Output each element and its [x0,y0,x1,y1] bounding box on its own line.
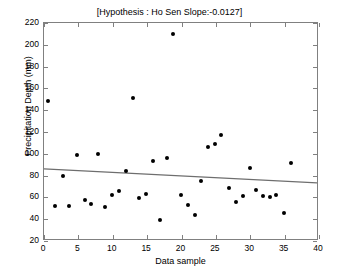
y-tick-label: 200 [6,39,39,49]
x-tick-label: 30 [237,243,261,253]
scatter-point [89,202,93,206]
scatter-point [158,218,162,222]
y-tick-label: 220 [6,17,39,27]
scatter-point [234,200,238,204]
scatter-point [213,142,217,146]
scatter-point [241,194,245,198]
scatter-point [268,195,272,199]
x-tick-label: 25 [203,243,227,253]
x-tick-label: 40 [306,243,330,253]
scatter-point [248,166,252,170]
plot-area [43,22,318,240]
scatter-point [53,204,57,208]
scatter-point [110,193,114,197]
scatter-point [261,194,265,198]
scatter-point [289,161,293,165]
x-tick-label: 10 [100,243,124,253]
y-tick-label: 40 [6,213,39,223]
scatter-point [206,145,210,149]
data-points [44,23,317,239]
scatter-point [199,179,203,183]
y-tick-label: 100 [6,148,39,158]
x-tick-label: 0 [31,243,55,253]
scatter-point [144,192,148,196]
scatter-point [131,96,135,100]
scatter-point [171,32,175,36]
x-axis-label: Data sample [43,256,318,266]
scatter-point [61,174,65,178]
x-tick-label: 15 [134,243,158,253]
scatter-point [186,203,190,207]
y-tick-label: 180 [6,61,39,71]
y-tick-label: 160 [6,82,39,92]
scatter-point [83,198,87,202]
scatter-point [179,193,183,197]
y-tick-label: 60 [6,191,39,201]
scatter-point [151,159,155,163]
x-tick-mark [319,235,320,239]
scatter-point [117,189,121,193]
scatter-point [46,99,50,103]
x-tick-mark-top [319,23,320,27]
figure-canvas: [Hypothesis : Ho Sen Slope:-0.0127] Prec… [0,0,339,275]
x-tick-label: 5 [65,243,89,253]
y-tick-label: 140 [6,104,39,114]
chart-title: [Hypothesis : Ho Sen Slope:-0.0127] [0,7,339,17]
scatter-point [193,213,197,217]
scatter-point [103,205,107,209]
y-tick-mark-right [313,241,317,242]
scatter-point [96,152,100,156]
x-tick-label: 20 [169,243,193,253]
scatter-point [137,196,141,200]
scatter-point [165,156,169,160]
scatter-point [219,133,223,137]
y-tick-mark [44,241,48,242]
scatter-point [254,188,258,192]
x-tick-label: 35 [272,243,296,253]
y-tick-label: 80 [6,170,39,180]
scatter-point [67,204,71,208]
scatter-point [274,193,278,197]
scatter-point [227,186,231,190]
scatter-point [282,211,286,215]
scatter-point [124,169,128,173]
scatter-point [75,153,79,157]
y-tick-label: 120 [6,126,39,136]
